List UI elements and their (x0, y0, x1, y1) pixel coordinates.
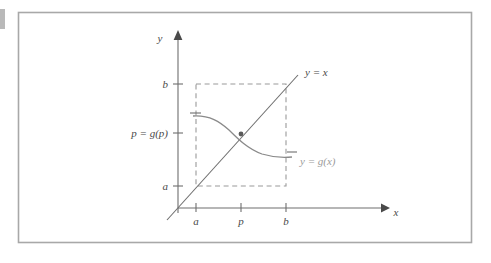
fixed-point-diagram: y x b p = g(p) a a p b y = x y = g(x) (0, 0, 491, 263)
page-edge-artifact (0, 9, 5, 29)
x-tick-label-b: b (283, 215, 289, 227)
figure-container: y x b p = g(p) a a p b y = x y = g(x) (0, 0, 491, 263)
y-tick-label-a: a (163, 180, 169, 192)
x-tick-label-p: p (237, 215, 244, 227)
y-axis-label: y (157, 32, 163, 44)
fixed-point-marker (239, 132, 244, 137)
x-tick-label-a: a (193, 215, 199, 227)
y-tick-label-p: p = g(p) (130, 127, 168, 140)
canvas-background (0, 0, 491, 263)
function-curve-label: y = g(x) (299, 155, 336, 168)
identity-line-label: y = x (304, 66, 328, 78)
x-axis-label: x (393, 206, 399, 218)
y-tick-label-b: b (163, 78, 169, 90)
